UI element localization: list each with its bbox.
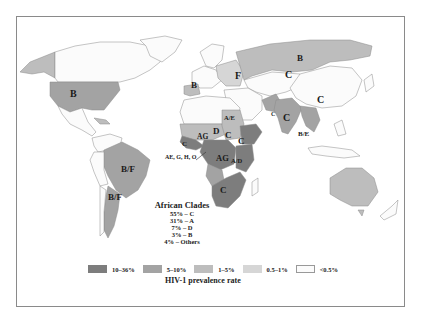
legend-label: 0.5–1% bbox=[267, 266, 288, 273]
region-china bbox=[290, 66, 362, 108]
region-philippines bbox=[334, 120, 346, 136]
region-mexico bbox=[58, 106, 96, 136]
label-southern-africa: C bbox=[220, 185, 227, 195]
label-china: C bbox=[317, 95, 324, 105]
label-ethiopia: C bbox=[238, 136, 245, 146]
prevalence-legend: 10–36% 5–10% 1–5% 0.5–1% <0.5% bbox=[88, 264, 346, 274]
clade-row: 4% – Others bbox=[152, 238, 212, 245]
legend-item-lt-0-5: <0.5% bbox=[296, 265, 338, 273]
label-sudan-west: D bbox=[213, 126, 220, 136]
region-new-zealand bbox=[380, 200, 398, 220]
clade-row: 7% – D bbox=[152, 224, 212, 231]
region-se-asia bbox=[300, 106, 320, 132]
african-clades-title: African Clades bbox=[152, 200, 212, 210]
legend-swatch bbox=[243, 265, 262, 273]
region-indonesia bbox=[308, 146, 360, 158]
label-north-america: B bbox=[70, 89, 77, 99]
region-madagascar bbox=[252, 178, 258, 196]
clade-row: 3% – B bbox=[152, 231, 212, 238]
label-western-europe: B bbox=[191, 80, 197, 90]
legend-item-5-10: 5–10% bbox=[143, 265, 187, 273]
label-central-africa: AG bbox=[216, 153, 229, 163]
region-alaska bbox=[20, 52, 55, 78]
legend-label: 10–36% bbox=[112, 266, 135, 273]
label-russia-north: B bbox=[297, 53, 303, 63]
legend-swatch bbox=[143, 265, 162, 273]
label-sudan-east: C bbox=[225, 130, 232, 140]
legend-swatch bbox=[296, 265, 315, 273]
region-tasmania bbox=[358, 210, 364, 216]
legend-item-1-5: 1–5% bbox=[194, 265, 234, 273]
region-scandinavia bbox=[200, 44, 224, 68]
legend-swatch bbox=[194, 265, 213, 273]
region-caribbean bbox=[94, 118, 110, 124]
label-west-africa: C bbox=[182, 141, 187, 147]
label-eastern-europe: F bbox=[235, 71, 241, 81]
clade-row: 55% – C bbox=[152, 210, 212, 217]
label-brazil: B/F bbox=[121, 164, 135, 174]
region-japan bbox=[364, 74, 374, 92]
clade-row: 31% – A bbox=[152, 217, 212, 224]
label-argentina: B/F bbox=[108, 192, 122, 202]
label-pakistan: C bbox=[271, 111, 275, 117]
label-india: C bbox=[283, 113, 290, 123]
legend-swatch bbox=[88, 265, 107, 273]
legend-label: 5–10% bbox=[167, 266, 187, 273]
label-southeast-asia: B/E bbox=[298, 131, 309, 137]
label-east-africa: A/D bbox=[231, 158, 242, 164]
label-west-africa-callout: AE, G, H, O bbox=[165, 154, 196, 160]
label-north-east-africa: A/E bbox=[224, 115, 235, 121]
region-australia bbox=[330, 168, 378, 206]
legend-title: HIV-1 prevalence rate bbox=[165, 276, 241, 285]
label-russia-central: C bbox=[285, 70, 292, 80]
legend-label: 1–5% bbox=[218, 266, 234, 273]
legend-item-10-36: 10–36% bbox=[88, 265, 135, 273]
world-map bbox=[0, 0, 422, 323]
legend-item-0-5-1: 0.5–1% bbox=[243, 265, 288, 273]
legend-label: <0.5% bbox=[320, 266, 338, 273]
label-sahel-west: AG bbox=[197, 132, 208, 142]
african-clades: African Clades 55% – C 31% – A 7% – D 3%… bbox=[152, 200, 212, 245]
